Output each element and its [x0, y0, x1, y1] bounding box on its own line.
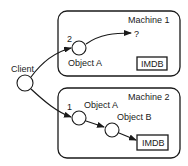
machine-2-object-b-node [105, 123, 119, 137]
machine-2: Machine 2 1 Object A Object B IMDB [58, 88, 180, 158]
client-label: Client [11, 64, 35, 74]
machine-2-object-a-node [72, 111, 86, 125]
machine-2-object-b-label: Object B [117, 112, 152, 122]
machine-1-title: Machine 1 [128, 15, 170, 25]
machine-1-object-a-node [72, 41, 86, 55]
machine-2-call-order: 1 [67, 102, 72, 112]
distributed-objects-diagram: Machine 1 2 Object A ? IMDB Machine 2 1 … [0, 0, 188, 166]
machine-1-object-a-label: Object A [68, 58, 102, 68]
machine-1-imdb-label: IMDB [141, 59, 164, 69]
machine-1: Machine 1 2 Object A ? IMDB [58, 11, 180, 76]
machine-2-imdb-label: IMDB [142, 138, 165, 148]
machine-2-title: Machine 2 [128, 92, 170, 102]
machine-1-unknown-target: ? [134, 29, 139, 39]
machine-1-call-order: 2 [67, 34, 72, 44]
client-node [17, 75, 33, 91]
machine-2-object-a-label: Object A [84, 100, 118, 110]
